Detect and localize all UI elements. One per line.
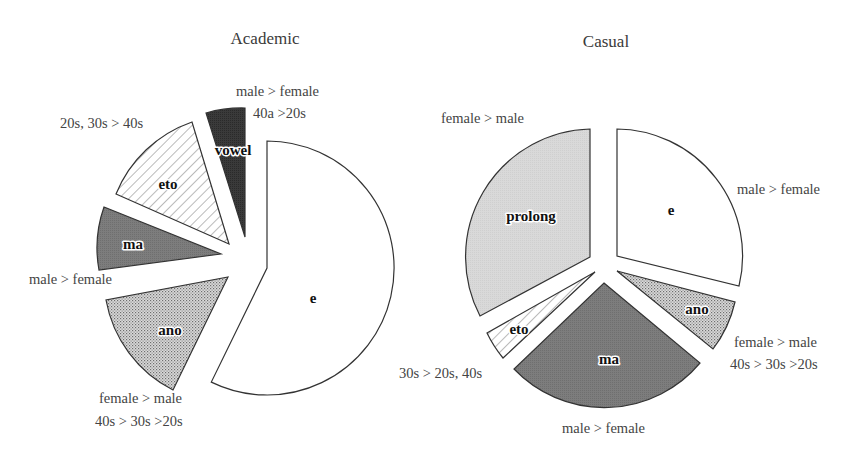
- academic-annotation-vowel-gender: male > female: [236, 83, 319, 99]
- casual-pie-chart: Casual e ano ma eto prolong female > mal…: [399, 32, 820, 436]
- casual-slice-label-prolong: prolong: [506, 208, 556, 224]
- casual-slice-label-ma: ma: [599, 351, 619, 367]
- casual-annotation-prolong: female > male: [441, 110, 524, 126]
- academic-slice-label-vowel: vowel: [215, 142, 252, 158]
- academic-slice-label-e: e: [310, 290, 317, 306]
- casual-annotation-e: male > female: [737, 181, 820, 197]
- academic-pie-chart: Academic e ano ma eto vowel male > femal…: [29, 29, 394, 429]
- academic-annotation-ano-age: 40s > 30s >20s: [95, 413, 183, 429]
- academic-slice-label-eto: eto: [158, 176, 177, 192]
- academic-annotation-eto: 20s, 30s > 40s: [60, 115, 143, 131]
- academic-chart-title: Academic: [231, 29, 300, 48]
- pie-charts-figure: Academic e ano ma eto vowel male > femal…: [0, 0, 865, 463]
- casual-annotation-eto: 30s > 20s, 40s: [399, 365, 482, 381]
- casual-slice-e: [617, 129, 743, 286]
- casual-slice-label-ano: ano: [685, 301, 708, 317]
- academic-annotation-ano-gender: female > male: [99, 390, 182, 406]
- academic-annotation-vowel-age: 40a >20s: [253, 105, 306, 121]
- casual-slice-label-e: e: [668, 202, 675, 218]
- academic-slice-label-ano: ano: [158, 322, 181, 338]
- casual-annotation-ma: male > female: [562, 420, 645, 436]
- casual-chart-title: Casual: [583, 32, 630, 51]
- casual-annotation-ano-age: 40s > 30s >20s: [730, 356, 818, 372]
- academic-slice-label-ma: ma: [123, 236, 143, 252]
- casual-annotation-ano-gender: female > male: [734, 334, 817, 350]
- academic-annotation-ma: male > female: [29, 271, 112, 287]
- casual-slice-label-eto: eto: [509, 321, 528, 337]
